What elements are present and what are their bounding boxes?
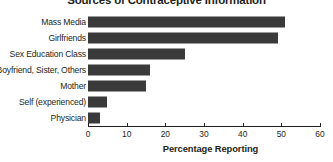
x-axis: 0 10 20 30 40 50 60 Percentage Reporting	[0, 126, 333, 162]
bar-boyfriend-sister-others	[88, 65, 150, 76]
bar-sex-education-class	[88, 49, 185, 60]
x-tick	[127, 123, 128, 127]
bar-row: Self (experienced)	[0, 94, 333, 110]
category-label: Mother	[60, 82, 86, 91]
category-label: Mass Media	[41, 18, 86, 27]
x-tick	[243, 123, 244, 127]
bar-row: Girlfriends	[0, 30, 333, 46]
x-tick-label: 30	[199, 130, 208, 138]
x-tick	[204, 123, 205, 127]
bar-row: Sex Education Class	[0, 46, 333, 62]
category-label: Girlfriends	[48, 34, 86, 43]
bar-self-experienced	[88, 97, 107, 108]
bar-row: Mass Media	[0, 14, 333, 30]
bar-chart: Sources of Contraceptive Information Mas…	[0, 0, 333, 162]
bar-row: Boyfriend, Sister, Others	[0, 62, 333, 78]
x-tick-label: 50	[277, 130, 286, 138]
category-label: Physician	[51, 114, 86, 123]
bar-mass-media	[88, 17, 285, 28]
chart-title: Sources of Contraceptive Information	[0, 0, 333, 6]
x-tick	[165, 123, 166, 127]
x-tick	[320, 123, 321, 127]
x-tick-label: 0	[86, 130, 91, 138]
bar-girlfriends	[88, 33, 278, 44]
x-tick	[88, 123, 89, 127]
plot-area: Mass Media Girlfriends Sex Education Cla…	[0, 14, 333, 126]
category-label: Boyfriend, Sister, Others	[0, 66, 86, 75]
x-tick-label: 10	[122, 130, 131, 138]
x-tick-label: 60	[315, 130, 324, 138]
category-label: Self (experienced)	[19, 98, 86, 107]
category-label: Sex Education Class	[10, 50, 86, 59]
x-tick	[281, 123, 282, 127]
bar-mother	[88, 81, 146, 92]
bar-row: Mother	[0, 78, 333, 94]
bar-row: Physician	[0, 110, 333, 126]
x-tick-label: 20	[161, 130, 170, 138]
x-axis-title: Percentage Reporting	[0, 143, 333, 154]
bar-physician	[88, 113, 100, 124]
x-tick-label: 40	[238, 130, 247, 138]
